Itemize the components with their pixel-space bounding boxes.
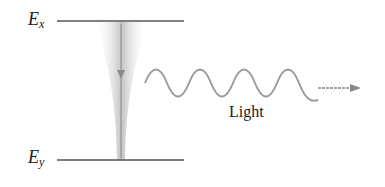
light-arrow-head [350,84,361,92]
light-label: Light [229,103,264,121]
upper-level-label: Ex [28,9,44,32]
lower-level-symbol: E [28,147,39,167]
upper-level-subscript: x [39,17,44,31]
lower-level-label: Ey [28,147,44,170]
light-wave [145,70,318,101]
lower-level-subscript: y [39,155,44,169]
diagram-graphics [0,0,385,187]
upper-level-symbol: E [28,9,39,29]
energy-level-diagram: Ex Ey Light [0,0,385,187]
